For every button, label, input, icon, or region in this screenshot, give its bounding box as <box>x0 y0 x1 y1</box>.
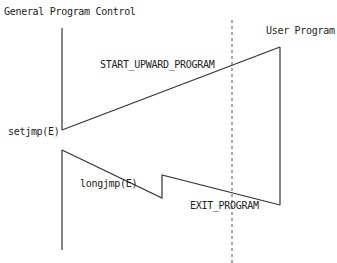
exit-program-label: EXIT_PROGRAM <box>190 200 259 211</box>
longjmp-label: longjmp(E) <box>80 178 137 189</box>
user-program-label: User Program <box>266 25 335 36</box>
start-upward-program-label: START_UPWARD_PROGRAM <box>100 59 214 70</box>
setjmp-label: setjmp(E) <box>8 126 60 137</box>
general-program-control-label: General Program Control <box>4 6 136 17</box>
